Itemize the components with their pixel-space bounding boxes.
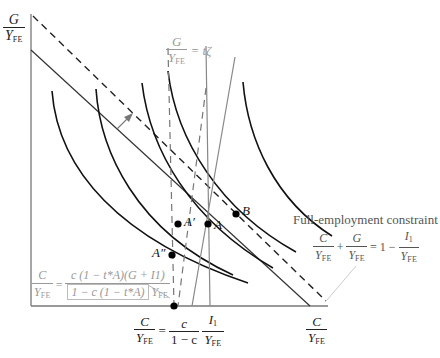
dashed-slanted-line [178, 88, 206, 306]
full-employment-leader-line [327, 266, 356, 300]
point-b [232, 210, 239, 217]
diagram-canvas [0, 0, 440, 358]
point-a-double-prime [168, 251, 175, 258]
label-a-prime: A′ [184, 214, 195, 230]
label-a: A [214, 217, 222, 233]
label-b: B [242, 203, 250, 219]
label-a-double-prime: A″ [152, 245, 165, 261]
left-equation: C YFE = c (1 − t*A)(G + I1) 1 − c (1 − t… [32, 268, 170, 304]
top-constraint-label: G YFE = tζ [166, 34, 211, 70]
shift-arrow-icon [117, 113, 133, 129]
full-employment-title: Full-employment constraint [293, 212, 438, 228]
point-axis [170, 302, 177, 309]
full-employment-equation: C YFE + G YFE = 1 − I1 YFE [313, 229, 419, 268]
point-a [204, 220, 211, 227]
constraint-line-slanted [192, 57, 235, 306]
bottom-equation: C YFE = c 1 − c I1 YFE [134, 312, 224, 352]
point-a-prime [174, 220, 181, 227]
y-axis-label: G YFE [3, 12, 25, 48]
x-axis-label: C YFE [306, 314, 327, 350]
